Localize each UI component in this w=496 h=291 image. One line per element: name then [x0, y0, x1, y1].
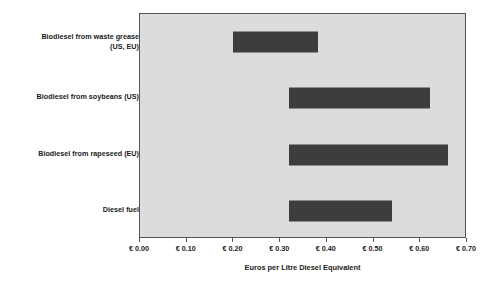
x-tick-mark	[139, 238, 140, 242]
category-label: Biodiesel from rapeseed (EU)	[38, 149, 139, 159]
x-tick-label: € 0.70	[443, 244, 489, 253]
x-tick-mark	[232, 238, 233, 242]
plot-area	[139, 13, 466, 238]
range-bar	[289, 200, 392, 221]
x-tick-mark	[419, 238, 420, 242]
category-label: Diesel fuel	[103, 205, 139, 215]
x-tick-label: € 0.40	[303, 244, 349, 253]
x-tick-label: € 0.60	[396, 244, 442, 253]
x-tick-label: € 0.10	[163, 244, 209, 253]
x-tick-mark	[186, 238, 187, 242]
x-tick-label: € 0.50	[350, 244, 396, 253]
category-label: Biodiesel from soybeans (US)	[37, 93, 139, 103]
chart-container: Biodiesel from waste grease (US, EU)Biod…	[0, 0, 496, 291]
x-tick-label: € 0.30	[256, 244, 302, 253]
x-tick-label: € 0.00	[116, 244, 162, 253]
x-tick-mark	[373, 238, 374, 242]
x-axis-title: Euros per Litre Diesel Equivalent	[139, 263, 466, 272]
x-tick-mark	[466, 238, 467, 242]
range-bar	[289, 144, 448, 165]
range-bar	[289, 88, 429, 109]
range-bar	[233, 32, 317, 53]
x-tick-mark	[279, 238, 280, 242]
x-tick-label: € 0.20	[209, 244, 255, 253]
x-tick-mark	[326, 238, 327, 242]
category-label: Biodiesel from waste grease (US, EU)	[41, 32, 139, 51]
